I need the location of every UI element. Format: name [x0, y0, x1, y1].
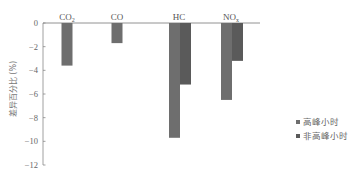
- y-tick-label: −2: [29, 42, 38, 52]
- bar-co-peak: [112, 23, 123, 43]
- category-label: NOx: [223, 12, 239, 23]
- legend-label-peak: 高峰小时: [303, 115, 339, 129]
- y-tick-label: −6: [29, 89, 38, 99]
- category-label: HC: [173, 12, 186, 22]
- y-tick-label: −4: [29, 65, 39, 75]
- y-axis-label: 差异百分比 (%): [8, 61, 18, 117]
- bar-co2-peak: [62, 23, 73, 66]
- legend: 高峰小时 非高峰小时: [296, 115, 348, 143]
- category-label: CO2: [59, 12, 75, 23]
- bar-hc-offpeak: [180, 23, 191, 85]
- legend-label-offpeak: 非高峰小时: [303, 129, 348, 143]
- y-tick-label: −10: [25, 136, 38, 146]
- legend-swatch-peak: [296, 120, 300, 124]
- legend-item-offpeak: 非高峰小时: [296, 129, 348, 143]
- legend-item-peak: 高峰小时: [296, 115, 348, 129]
- bar-hc-peak: [169, 23, 180, 138]
- y-tick-label: 0: [34, 18, 38, 28]
- legend-swatch-offpeak: [296, 134, 300, 138]
- y-tick-label: −12: [25, 160, 38, 170]
- bar-nox-peak: [221, 23, 232, 100]
- bar-nox-offpeak: [232, 23, 243, 61]
- y-tick-label: −8: [29, 113, 38, 123]
- category-label: CO: [111, 12, 124, 22]
